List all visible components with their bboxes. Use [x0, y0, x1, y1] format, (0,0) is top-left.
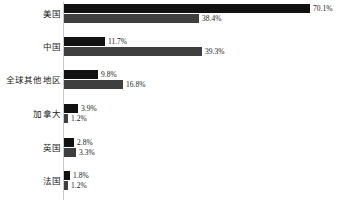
bar-series-2	[64, 114, 68, 123]
bar-value-label: 3.3%	[79, 148, 95, 158]
category-label: 加拿大	[0, 109, 61, 119]
bar-series-2	[64, 181, 68, 190]
bar-value-label: 39.3%	[205, 47, 224, 57]
bar-chart: 美国 70.1% 38.4% 中国 11.7% 39.3% 全球其他地区 9.8…	[0, 0, 363, 207]
bar-group: 英国 2.8% 3.3%	[0, 138, 363, 160]
bar-value-label: 1.2%	[71, 181, 87, 191]
bar-value-label: 2.8%	[77, 138, 93, 148]
bar-series-1	[64, 37, 105, 46]
bar-value-label: 1.2%	[71, 114, 87, 124]
bar-series-2	[64, 14, 199, 23]
bar-group: 法国 1.8% 1.2%	[0, 171, 363, 193]
category-label: 中国	[0, 42, 61, 52]
bar-series-1	[64, 70, 98, 79]
bar-series-2	[64, 47, 202, 56]
bar-group: 中国 11.7% 39.3%	[0, 37, 363, 59]
bar-series-1	[64, 138, 74, 147]
bar-value-label: 38.4%	[202, 14, 221, 24]
bar-series-1	[64, 171, 70, 180]
bar-group: 全球其他地区 9.8% 16.8%	[0, 70, 363, 92]
bar-value-label: 16.8%	[126, 80, 145, 90]
category-label: 美国	[0, 9, 61, 19]
bar-series-1	[64, 4, 310, 13]
category-label: 全球其他地区	[0, 75, 61, 85]
bar-group: 加拿大 3.9% 1.2%	[0, 104, 363, 126]
bar-value-label: 11.7%	[108, 37, 127, 47]
bar-group: 美国 70.1% 38.4%	[0, 4, 363, 26]
bar-value-label: 3.9%	[81, 104, 97, 114]
bar-series-1	[64, 104, 78, 113]
category-label: 英国	[0, 143, 61, 153]
bar-value-label: 9.8%	[101, 70, 117, 80]
bar-series-2	[64, 80, 123, 89]
bar-series-2	[64, 148, 76, 157]
bar-value-label: 70.1%	[313, 4, 332, 14]
bar-value-label: 1.8%	[73, 171, 89, 181]
category-label: 法国	[0, 176, 61, 186]
